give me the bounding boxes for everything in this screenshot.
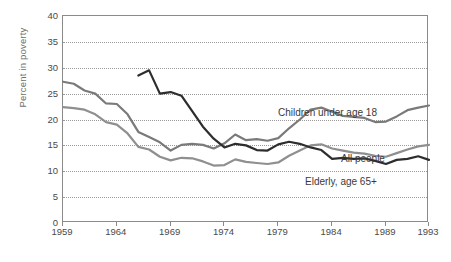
x-axis-tick: 1959 bbox=[51, 226, 72, 237]
y-axis-tick: 25 bbox=[18, 87, 58, 98]
series-label-all-people: All people bbox=[341, 153, 385, 164]
x-axis-tick-labels: 19591964196919741979198419891993 bbox=[62, 226, 428, 242]
poverty-rate-line-chart: Percent in poverty 0510152025303540 1959… bbox=[0, 0, 451, 262]
y-axis-tick: 35 bbox=[18, 35, 58, 46]
y-axis-tick: 20 bbox=[18, 113, 58, 124]
series-label-children: Children under age 18 bbox=[278, 107, 377, 118]
y-axis-tick: 10 bbox=[18, 165, 58, 176]
y-axis-tick-labels: 0510152025303540 bbox=[16, 15, 58, 222]
y-axis-tick: 40 bbox=[18, 10, 58, 21]
x-axis-tick: 1979 bbox=[267, 226, 288, 237]
series-label-elderly: Elderly, age 65+ bbox=[305, 176, 377, 187]
plot-area bbox=[62, 15, 428, 222]
x-axis-tick: 1964 bbox=[105, 226, 126, 237]
x-axis-tick: 1993 bbox=[417, 226, 438, 237]
y-axis-tick: 5 bbox=[18, 191, 58, 202]
y-axis-tick: 30 bbox=[18, 61, 58, 72]
x-axis-tick: 1984 bbox=[321, 226, 342, 237]
x-axis-tick: 1974 bbox=[213, 226, 234, 237]
series-lines bbox=[63, 16, 429, 223]
x-axis-tick: 1989 bbox=[374, 226, 395, 237]
y-axis-tick: 15 bbox=[18, 139, 58, 150]
x-axis-tick: 1969 bbox=[159, 226, 180, 237]
